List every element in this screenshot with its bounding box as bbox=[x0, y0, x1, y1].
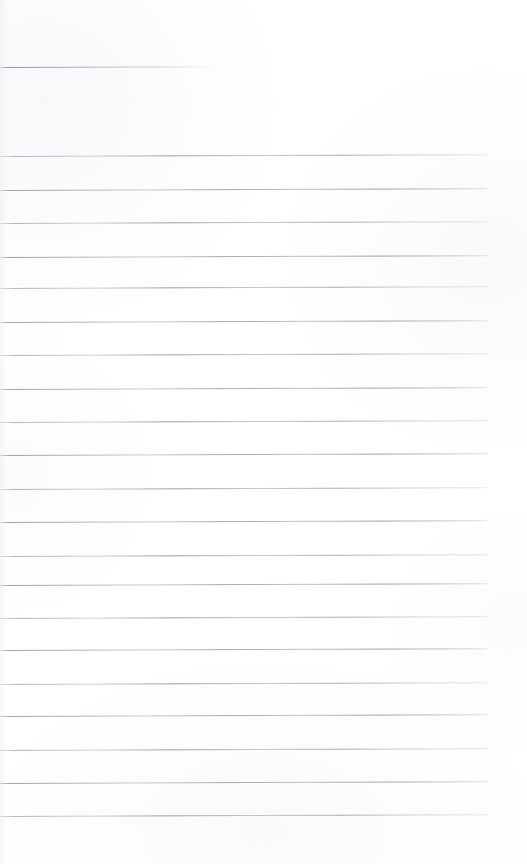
ruled-line bbox=[0, 286, 487, 289]
ruled-line-ink bbox=[0, 616, 487, 619]
ruled-line-ink bbox=[0, 255, 487, 258]
scan-edge-shadow bbox=[0, 0, 7, 864]
ruled-line-ink bbox=[0, 682, 487, 685]
ruled-line-ink bbox=[0, 286, 487, 289]
ruled-line-ink bbox=[0, 188, 487, 191]
ruled-line bbox=[0, 748, 487, 751]
ruled-line bbox=[0, 682, 487, 685]
ruled-line bbox=[0, 188, 487, 191]
ruled-line-ink bbox=[0, 353, 487, 356]
ruled-line bbox=[0, 554, 487, 557]
ruled-line bbox=[0, 221, 487, 224]
ruled-line-ink bbox=[0, 648, 487, 651]
ruled-line bbox=[0, 583, 487, 586]
ruled-line-ink bbox=[0, 453, 487, 456]
ruled-line bbox=[0, 520, 487, 523]
ruled-line bbox=[0, 420, 487, 423]
ruled-line-ink bbox=[0, 748, 487, 751]
ruled-line-ink bbox=[0, 420, 487, 423]
ruled-line-ink bbox=[0, 583, 487, 586]
ruled-line bbox=[0, 387, 487, 390]
ruled-line-ink bbox=[0, 66, 212, 68]
ruled-line bbox=[0, 255, 487, 258]
ruled-line bbox=[0, 487, 487, 490]
ruled-line-partial bbox=[0, 66, 212, 68]
ruled-line-ink bbox=[0, 487, 487, 490]
ruled-line-ink bbox=[0, 387, 487, 390]
ruled-line bbox=[0, 453, 487, 456]
ruled-line-ink bbox=[0, 554, 487, 557]
ruled-line-ink bbox=[0, 221, 487, 224]
ruled-line bbox=[0, 616, 487, 619]
ruled-line bbox=[0, 320, 487, 323]
ruled-line-ink bbox=[0, 154, 487, 157]
ruled-line bbox=[0, 781, 487, 784]
ruled-line-ink bbox=[0, 781, 487, 784]
ruled-line bbox=[0, 353, 487, 356]
ruled-line bbox=[0, 714, 487, 717]
ruled-line bbox=[0, 154, 487, 157]
ruled-line-ink bbox=[0, 320, 487, 323]
ruled-line-ink bbox=[0, 814, 487, 817]
ruled-line bbox=[0, 648, 487, 651]
paper-texture bbox=[0, 0, 527, 864]
scanned-page bbox=[0, 0, 527, 864]
ruled-line bbox=[0, 814, 487, 817]
ruled-line-ink bbox=[0, 520, 487, 523]
ruled-line-ink bbox=[0, 714, 487, 717]
